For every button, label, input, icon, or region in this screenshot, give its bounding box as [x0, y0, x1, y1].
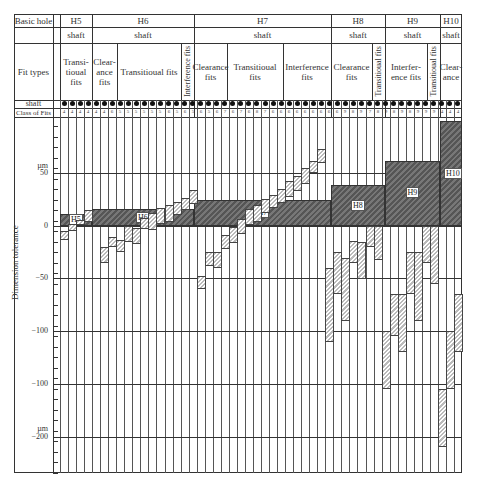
shaft-zone-bar — [213, 252, 222, 268]
class-of-fits-value: 5 — [124, 109, 132, 114]
hole-header-h6: H6 — [92, 14, 194, 27]
shaft-dot-icon — [415, 101, 420, 106]
column-line — [189, 100, 190, 473]
class-of-fits-value: 7 — [237, 109, 245, 114]
class-of-fits-value: 5 — [132, 109, 140, 114]
shaft-dot-icon — [343, 101, 348, 106]
hole-header-h10: H10 — [440, 14, 462, 27]
hole-header-h9: H9 — [385, 14, 440, 27]
shaft-zone-bar — [341, 258, 350, 321]
minor-tick — [53, 389, 58, 390]
shaft-dot-icon — [287, 101, 292, 106]
fit-type-label: Transitioual fits — [121, 67, 178, 77]
shaft-dot-icon — [327, 101, 332, 106]
shaft-dot-icon — [367, 101, 372, 106]
fit-type-cell: Clearance fits — [331, 43, 372, 100]
shaft-dot-icon — [182, 101, 187, 106]
class-of-fits-value: 7 — [261, 109, 269, 114]
hole-header-h8: H8 — [331, 14, 385, 27]
class-of-fits-value: 6 — [108, 109, 116, 114]
fit-type-cell: Clear- ance — [440, 43, 462, 100]
fit-types-label: Fit types — [14, 43, 53, 100]
label-column-divider — [53, 14, 54, 473]
column-line — [261, 100, 262, 473]
column-line — [68, 100, 69, 473]
class-of-fits-value: 4 — [100, 109, 108, 114]
class-of-fits-value: 7 — [366, 109, 374, 114]
minor-tick — [53, 431, 58, 432]
class-of-fits-value: 4 — [60, 109, 68, 114]
class-of-fits-value: 8 — [390, 109, 398, 114]
minor-tick — [53, 284, 58, 285]
column-line — [253, 100, 254, 473]
shaft-dot-icon — [94, 101, 99, 106]
class-of-fits-value: 6 — [229, 109, 237, 114]
minor-tick — [53, 242, 58, 243]
fit-type-cell: Clearance fits — [194, 43, 227, 100]
minor-tick — [53, 158, 58, 159]
class-of-fits-value: 6 — [181, 109, 189, 114]
column-line — [357, 100, 358, 473]
minor-tick — [53, 315, 58, 316]
shaft-dot-icon — [238, 101, 243, 106]
fit-type-cell: Transitioual fits — [427, 43, 440, 100]
header-rule — [14, 117, 462, 118]
fit-type-cell: Transi- tioual fits — [60, 43, 92, 100]
column-line — [84, 100, 85, 473]
class-of-fits-value: 4 — [68, 109, 76, 114]
fit-type-cell: Clear- ance fits — [92, 43, 117, 100]
class-of-fits-value: 4 — [446, 109, 454, 114]
column-line — [221, 100, 222, 473]
column-line — [181, 100, 182, 473]
class-of-fits-value: 5 — [205, 109, 213, 114]
column-line — [173, 100, 174, 473]
shaft-zone-bar — [60, 231, 69, 239]
shaft-dot-icon — [263, 101, 268, 106]
shaft-zone-bar — [84, 210, 93, 222]
class-of-fits-value: 5 — [148, 109, 156, 114]
shaft-zone-bar — [454, 294, 463, 352]
hole-zone-label: H9 — [406, 187, 420, 198]
class-of-fits-value: 5 — [173, 109, 181, 114]
shaft-zone-bar — [382, 331, 391, 389]
shaft-header-h9: shaft — [385, 27, 440, 43]
shaft-dot-icon — [110, 101, 115, 106]
class-of-fits-value: 9 — [382, 109, 390, 114]
shaft-zone-bar — [132, 228, 141, 244]
y-axis-title: Dimension tolerance — [10, 225, 20, 300]
column-line — [366, 100, 367, 473]
shaft-dot-icon — [391, 101, 396, 106]
class-of-fits-value: 9 — [357, 109, 365, 114]
shaft-dot-icon — [62, 101, 67, 106]
basic-hole-label: Basic hole — [14, 14, 53, 27]
class-of-fits-value: 8 — [253, 109, 261, 114]
fit-type-cell: Transitioual fits — [117, 43, 181, 100]
minor-tick — [53, 305, 58, 306]
class-of-fits-value: 6 — [213, 109, 221, 114]
fit-type-label: Clear- ance fits — [93, 57, 115, 87]
class-of-fits-value: 4 — [84, 109, 92, 114]
major-gridline — [53, 226, 462, 227]
shaft-header-h5: shaft — [60, 27, 92, 43]
column-line — [277, 100, 278, 473]
shaft-dot-icon — [399, 101, 404, 106]
column-line — [116, 100, 117, 473]
shaft-dot-icon — [375, 101, 380, 106]
column-line — [269, 100, 270, 473]
class-of-fits-value: 4 — [92, 109, 100, 114]
class-of-fits-value: 4 — [438, 109, 446, 114]
shaft-dot-icon — [206, 101, 211, 106]
shaft-zone-bar — [156, 208, 165, 224]
column-line — [124, 100, 125, 473]
shaft-header-h6: shaft — [92, 27, 194, 43]
shaft-dot-icon — [126, 101, 131, 106]
hole-zone-label: H8 — [351, 200, 365, 211]
shaft-dot-icon — [335, 101, 340, 106]
class-of-fits-value: 6 — [197, 109, 205, 114]
shaft-header-h10: shaft — [440, 27, 462, 43]
fit-type-label: Transitioual fits — [233, 62, 276, 82]
fit-type-cell: Transitioual fits — [227, 43, 283, 100]
class-of-fits-value: 6 — [317, 109, 325, 114]
class-of-fits-label: Class of Fits — [14, 108, 53, 117]
class-of-fits-value: 6 — [245, 109, 253, 114]
